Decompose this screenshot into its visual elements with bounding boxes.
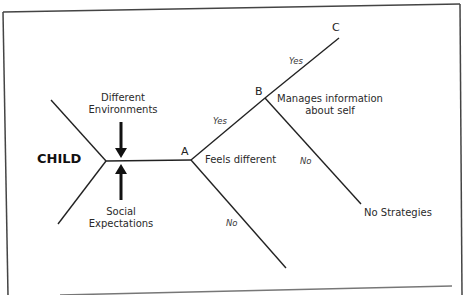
child-label: CHILD — [37, 153, 81, 165]
outcome-no-strategies: No Strategies — [364, 207, 432, 219]
branch-b-yes-label: Yes — [289, 55, 303, 67]
decision-branches — [191, 38, 361, 268]
influence-top-line-1: Different — [88, 92, 157, 104]
branch-a-yes-label: Yes — [213, 115, 227, 127]
influence-top-label: Different Environments — [88, 92, 157, 116]
node-b-description-line-2: about self — [277, 105, 383, 117]
branch-a-no-label: No — [226, 217, 238, 229]
influence-bottom-line-2: Expectations — [89, 218, 154, 230]
node-b-description-line-1: Manages information — [277, 93, 383, 105]
frame-border — [3, 4, 462, 295]
branch-b-no-label: No — [300, 155, 312, 167]
diagram-canvas — [0, 0, 465, 295]
node-a-label: A — [181, 146, 189, 158]
influence-bottom-label: Social Expectations — [89, 206, 154, 230]
node-a-description: Feels different — [205, 154, 276, 166]
node-c-label: C — [332, 22, 340, 34]
influence-bottom-line-1: Social — [89, 206, 154, 218]
node-b-label: B — [255, 86, 263, 98]
influence-top-line-2: Environments — [88, 104, 157, 116]
arrow-down-icon — [115, 148, 127, 158]
arrow-up-icon — [115, 164, 127, 174]
node-b-description: Manages information about self — [277, 93, 383, 117]
